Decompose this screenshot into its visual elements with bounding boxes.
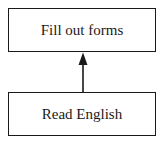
arrowhead-icon (79, 53, 88, 66)
node-label: Read English (42, 106, 122, 123)
node-read-english: Read English (8, 92, 156, 136)
